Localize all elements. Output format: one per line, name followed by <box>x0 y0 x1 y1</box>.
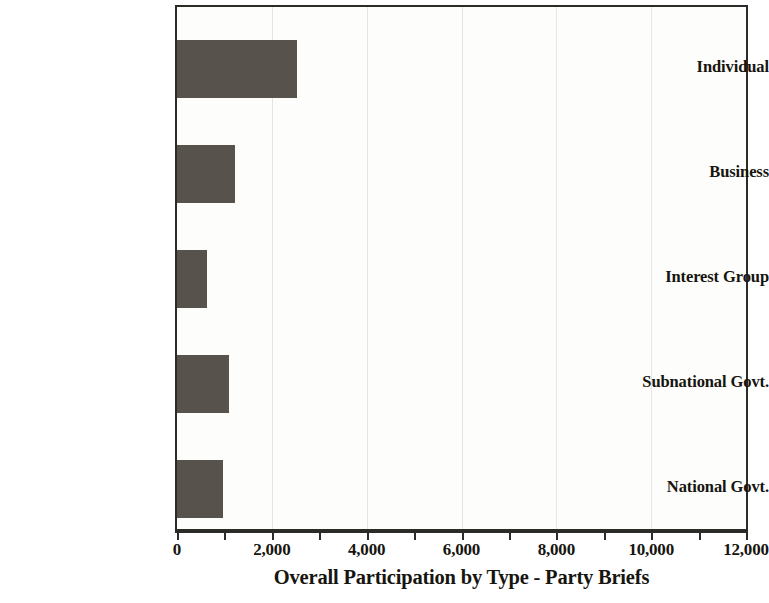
x-axis-tick <box>272 531 274 540</box>
x-axis-tick-label: 6,000 <box>443 541 480 560</box>
x-axis-tick <box>556 531 558 540</box>
bar <box>177 145 235 203</box>
gridline <box>367 7 368 529</box>
x-axis-tick <box>224 531 226 540</box>
x-axis-tick <box>367 531 369 540</box>
bar <box>177 250 207 308</box>
gridline <box>462 7 463 529</box>
x-axis-tick <box>509 531 511 540</box>
x-axis-title: Overall Participation by Type - Party Br… <box>175 566 748 589</box>
x-axis-tick-label: 12,000 <box>723 541 769 560</box>
y-axis-label-business: Business <box>601 164 769 181</box>
x-axis-tick-label: 0 <box>173 541 181 560</box>
y-axis-label-national-govt: National Govt. <box>601 479 769 496</box>
y-axis-label-interest-group: Interest Group <box>601 269 769 286</box>
x-axis-tick-label: 8,000 <box>538 541 575 560</box>
x-axis-tick <box>177 531 179 540</box>
y-axis-label-individual: Individual <box>601 58 769 75</box>
gridline <box>556 7 557 529</box>
x-axis-tick <box>604 531 606 540</box>
x-axis-tick-label: 10,000 <box>628 541 674 560</box>
x-axis-tick <box>699 531 701 540</box>
x-axis-tick <box>651 531 653 540</box>
x-axis-tick <box>746 531 748 540</box>
x-axis-tick <box>414 531 416 540</box>
bar <box>177 40 297 98</box>
x-axis-tick <box>462 531 464 540</box>
bar <box>177 355 229 413</box>
x-axis-tick-label: 2,000 <box>253 541 290 560</box>
bar <box>177 460 223 518</box>
x-axis-tick-label: 4,000 <box>348 541 385 560</box>
bar-chart: IndividualBusinessInterest GroupSubnatio… <box>0 0 769 603</box>
y-axis-label-subnational-govt: Subnational Govt. <box>601 374 769 391</box>
x-axis-tick <box>319 531 321 540</box>
